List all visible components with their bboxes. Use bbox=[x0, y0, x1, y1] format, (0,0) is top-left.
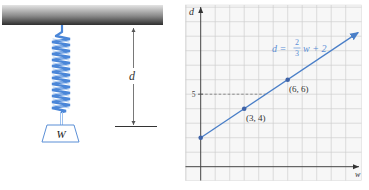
point-label-3-4: (3, 4) bbox=[246, 113, 266, 123]
y-tick-label-5: 5 bbox=[192, 90, 196, 99]
x-axis-label: w bbox=[355, 170, 361, 179]
svg-text:2: 2 bbox=[295, 38, 299, 47]
figure: W d bbox=[0, 0, 369, 190]
spring-diagram: W d bbox=[2, 5, 163, 142]
spring-hook bbox=[56, 25, 62, 36]
spring-icon bbox=[52, 36, 70, 112]
weight-label: W bbox=[56, 128, 66, 140]
distance-label: d bbox=[129, 69, 136, 83]
line-graph: w d 5 (3, 4) (6, 6) d = 2 3 w + 2 bbox=[186, 5, 362, 181]
point-label-6-6: (6, 6) bbox=[289, 84, 309, 94]
data-point-6-6 bbox=[285, 77, 290, 82]
data-point-3-4 bbox=[242, 106, 247, 111]
data-point-0-2 bbox=[198, 135, 203, 140]
svg-text:d =: d = bbox=[272, 43, 286, 54]
ceiling bbox=[2, 5, 163, 25]
svg-text:3: 3 bbox=[295, 49, 299, 58]
svg-text:w + 2: w + 2 bbox=[303, 43, 326, 54]
